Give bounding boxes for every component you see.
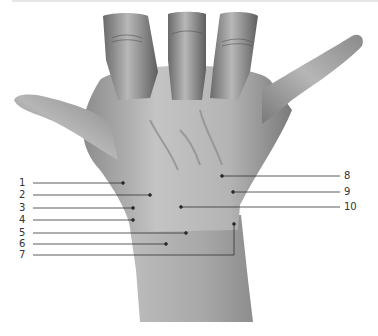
- label-8: 8: [344, 171, 350, 181]
- thumb: [262, 35, 363, 124]
- label-7: 7: [19, 250, 25, 260]
- label-10: 10: [344, 202, 357, 212]
- label-9: 9: [344, 187, 350, 197]
- label-6: 6: [19, 239, 25, 249]
- hand-illustration: [0, 0, 378, 336]
- finger-middle: [168, 12, 206, 100]
- label-4: 4: [19, 215, 25, 225]
- label-3: 3: [19, 203, 25, 213]
- label-2: 2: [19, 190, 25, 200]
- label-1: 1: [19, 178, 25, 188]
- label-5: 5: [19, 228, 25, 238]
